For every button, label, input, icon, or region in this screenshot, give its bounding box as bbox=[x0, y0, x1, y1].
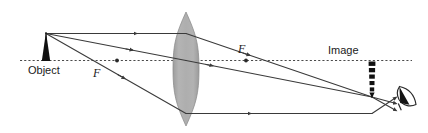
focal-point-right-dot bbox=[244, 59, 248, 63]
object-arrow bbox=[42, 32, 50, 61]
focal-point-left-dot bbox=[115, 59, 119, 63]
focal-point-left-label: F bbox=[92, 66, 101, 80]
image-arrow bbox=[369, 62, 376, 99]
object-label: Object bbox=[28, 64, 60, 76]
eye-observer bbox=[397, 87, 416, 111]
focal-point-right-label: F bbox=[237, 42, 246, 56]
optics-diagram-canvas: Object Image F F bbox=[0, 0, 428, 133]
ray-bundle-to-eye bbox=[372, 97, 396, 114]
image-label: Image bbox=[328, 44, 359, 56]
ray-diagram-figure: Object Image F F bbox=[0, 0, 428, 133]
